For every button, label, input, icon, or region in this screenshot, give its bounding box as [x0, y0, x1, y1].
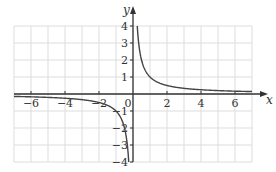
y-tick-label: −4	[112, 156, 128, 169]
y-tick-label: 4	[121, 20, 128, 33]
y-tick-label: 2	[121, 54, 128, 67]
y-tick-label: 1	[121, 71, 128, 84]
y-tick-label: 3	[121, 37, 128, 50]
y-axis-label: y	[122, 3, 130, 17]
x-tick-label: −6	[23, 97, 39, 110]
x-tick-label: 4	[198, 97, 205, 110]
x-axis-label: x	[266, 93, 273, 107]
y-tick-label: −3	[112, 139, 128, 152]
axes	[14, 6, 268, 162]
x-tick-label: 6	[232, 97, 239, 110]
x-tick-label: 2	[164, 97, 171, 110]
chart: −6−4−20246−4−3−2−11234 x y	[0, 0, 276, 172]
